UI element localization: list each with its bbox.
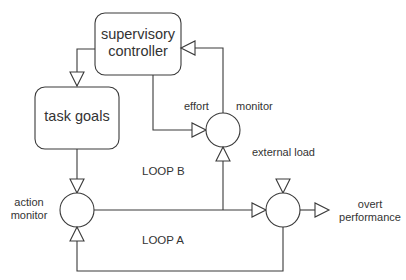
supervisory-controller-line1: supervisory bbox=[95, 26, 181, 43]
loop-a-label: LOOP A bbox=[142, 234, 184, 248]
arrow-into-action-monitor-top-icon bbox=[70, 179, 84, 193]
action-monitor-label: action monitor bbox=[4, 196, 54, 222]
performance-junction-node bbox=[266, 193, 300, 227]
overt-performance-line1: overt bbox=[336, 198, 404, 211]
overt-performance-label: overt performance bbox=[336, 198, 404, 224]
arrow-into-supervisory-icon bbox=[181, 41, 195, 55]
arrow-into-effort-monitor-icon bbox=[192, 123, 206, 137]
control-diagram-canvas bbox=[0, 0, 406, 280]
monitor-label: monitor bbox=[236, 100, 273, 113]
task-goals-label: task goals bbox=[35, 108, 119, 125]
loop-b-label: LOOP B bbox=[142, 165, 185, 179]
arrow-into-effort-monitor-bottom-icon bbox=[216, 147, 230, 161]
action-monitor-node bbox=[60, 193, 94, 227]
arrow-external-load-icon bbox=[276, 179, 290, 193]
effort-monitor-node bbox=[206, 113, 240, 147]
supervisory-controller-label: supervisory controller bbox=[95, 26, 181, 61]
arrow-overt-performance-icon bbox=[315, 203, 329, 217]
arrow-into-performance-left-icon bbox=[252, 203, 266, 217]
arrow-into-action-monitor-bottom-icon bbox=[70, 227, 84, 241]
arrow-into-task-goals-icon bbox=[70, 72, 84, 86]
action-monitor-line2: monitor bbox=[4, 209, 54, 222]
effort-label: effort bbox=[184, 100, 209, 113]
overt-performance-line2: performance bbox=[336, 211, 404, 224]
supervisory-controller-line2: controller bbox=[95, 43, 181, 60]
action-monitor-line1: action bbox=[4, 196, 54, 209]
external-load-label: external load bbox=[252, 146, 315, 159]
